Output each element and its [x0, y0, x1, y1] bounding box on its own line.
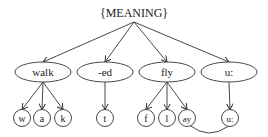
phoneme-label: a [40, 113, 45, 124]
edge-fly-to-phoneme [146, 82, 167, 110]
morpheme-node-fly: fly [139, 62, 195, 82]
phoneme-node: l [159, 110, 176, 127]
morpheme-node-ed: -ed [77, 62, 133, 82]
connector-ay-to-u [190, 126, 228, 134]
phoneme-node: a [34, 110, 51, 127]
phoneme-label: k [61, 113, 66, 124]
morpheme-node-u: u: [201, 62, 257, 82]
morpheme-label: walk [32, 66, 54, 78]
root-label-meaning: {MEANING} [100, 6, 168, 20]
edge-root-to-fly [134, 22, 167, 62]
morpheme-label: -ed [98, 66, 113, 78]
edge-walk-to-phoneme [43, 82, 63, 110]
edge-walk-to-phoneme [22, 82, 43, 110]
morphology-tree-diagram: walk-edflyu:waktflayu: {MEANING} [0, 0, 268, 137]
phoneme-label: ay [183, 114, 192, 124]
edge-walk-to-phoneme [42, 82, 43, 110]
phoneme-label: l [166, 113, 169, 124]
edge-root-to-walk [43, 22, 134, 62]
phoneme-node: ay [179, 110, 196, 127]
phoneme-node: k [55, 110, 72, 127]
nodes: walk-edflyu:waktflayu: [14, 62, 258, 127]
edge-root-to-u [134, 22, 229, 62]
phoneme-node: u: [222, 110, 239, 127]
morpheme-node-walk: walk [15, 62, 71, 82]
morpheme-label: u: [225, 66, 234, 78]
phoneme-label: u: [226, 114, 233, 124]
edge-fly-to-phoneme [167, 82, 187, 110]
phoneme-label: t [104, 113, 107, 124]
phoneme-label: w [18, 113, 26, 124]
edge-u-to-phoneme [229, 82, 230, 110]
phoneme-node: w [14, 110, 31, 127]
phoneme-node: f [138, 110, 155, 127]
morpheme-label: fly [161, 66, 174, 78]
phoneme-node: t [97, 110, 114, 127]
